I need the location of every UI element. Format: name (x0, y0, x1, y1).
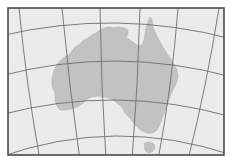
australia-map (0, 0, 232, 166)
